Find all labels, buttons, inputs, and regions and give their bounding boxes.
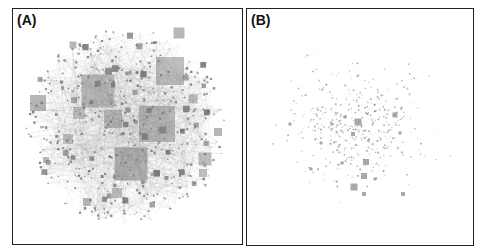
node	[380, 157, 381, 158]
node	[344, 154, 345, 155]
node	[184, 97, 186, 99]
node	[384, 148, 385, 149]
node	[385, 165, 386, 166]
node	[372, 122, 374, 124]
node	[213, 113, 215, 115]
node	[50, 90, 52, 92]
node	[374, 104, 376, 106]
node	[361, 126, 362, 127]
node	[335, 113, 337, 115]
node	[174, 176, 175, 177]
node	[367, 102, 369, 104]
node	[28, 134, 29, 135]
node	[324, 180, 325, 181]
node	[377, 148, 378, 149]
node	[109, 38, 111, 40]
node	[402, 154, 403, 155]
node	[388, 146, 389, 147]
node	[129, 133, 132, 136]
node	[290, 110, 291, 111]
node	[388, 124, 389, 125]
node	[320, 148, 321, 149]
node	[357, 145, 358, 146]
node	[293, 100, 295, 102]
node	[182, 196, 183, 197]
node	[373, 79, 374, 80]
node	[351, 78, 352, 79]
node	[342, 127, 343, 128]
node	[105, 217, 106, 218]
hub-node	[310, 168, 313, 171]
node	[221, 153, 222, 154]
node	[304, 95, 305, 96]
node	[403, 86, 405, 88]
node	[383, 116, 385, 118]
node	[377, 89, 378, 90]
node	[204, 153, 206, 155]
node	[272, 143, 273, 144]
node	[365, 88, 366, 89]
node	[303, 115, 304, 116]
node	[334, 181, 335, 182]
node	[104, 130, 105, 131]
node	[198, 81, 199, 82]
node	[344, 147, 346, 149]
node	[331, 95, 332, 96]
node	[361, 139, 362, 140]
node	[311, 109, 312, 110]
node	[143, 100, 145, 102]
node	[205, 117, 206, 118]
node	[151, 106, 153, 108]
node	[330, 135, 331, 136]
node	[75, 132, 76, 133]
node	[165, 198, 166, 199]
node	[78, 175, 80, 177]
hub-node	[63, 134, 73, 144]
node	[349, 104, 351, 106]
node	[208, 175, 209, 176]
node	[190, 83, 192, 85]
node	[335, 103, 337, 105]
node	[338, 164, 340, 166]
node	[83, 107, 85, 109]
node	[340, 114, 341, 115]
node	[183, 106, 190, 113]
node	[353, 100, 354, 101]
node	[56, 142, 58, 144]
node	[347, 175, 348, 176]
hub-node	[174, 28, 185, 39]
node	[162, 112, 165, 115]
node	[169, 48, 170, 49]
node	[173, 91, 174, 92]
node	[113, 174, 115, 176]
node	[390, 155, 391, 156]
node	[403, 112, 404, 113]
node	[357, 63, 359, 65]
node	[353, 120, 354, 121]
node	[164, 176, 168, 180]
node	[157, 193, 159, 195]
node	[323, 126, 324, 127]
node	[52, 110, 53, 111]
node	[79, 212, 81, 214]
node	[123, 210, 125, 212]
node	[349, 143, 350, 144]
node	[286, 140, 288, 142]
node	[392, 137, 394, 139]
node	[301, 132, 302, 133]
node	[386, 131, 388, 133]
node	[369, 154, 370, 155]
node	[204, 141, 209, 146]
node	[395, 98, 396, 99]
node	[371, 119, 373, 121]
node	[372, 124, 374, 126]
node	[373, 145, 374, 146]
node	[145, 181, 147, 183]
node	[156, 100, 157, 101]
hub-node	[393, 113, 398, 118]
hub-node	[399, 132, 402, 135]
node	[90, 54, 92, 56]
node	[335, 141, 336, 142]
node	[33, 121, 35, 123]
node	[287, 134, 289, 136]
